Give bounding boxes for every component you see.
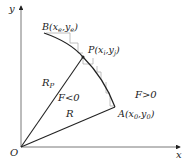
radius-r-label: R: [65, 108, 74, 119]
x-axis-label: x: [176, 149, 182, 158]
point-p-label: P(xi,yj): [87, 44, 120, 57]
point-b-label: B(xe,ye): [41, 21, 78, 34]
y-axis-label: y: [8, 3, 15, 14]
radius-rp-label: RP: [41, 77, 55, 90]
point-p-marker: [82, 56, 85, 59]
origin-label: O: [10, 147, 18, 158]
arc-interpolation-diagram: y x O B(xe,ye) P(xi,yj) A(x0,y0) RP R F<…: [0, 0, 189, 158]
point-a-label: A(x0,y0): [117, 108, 155, 121]
region-inside-label: F<0: [57, 92, 80, 103]
region-outside-label: F>0: [134, 89, 157, 100]
